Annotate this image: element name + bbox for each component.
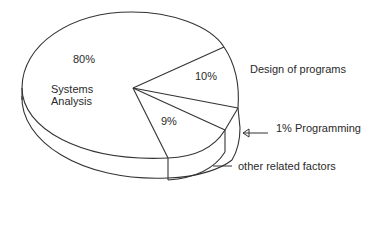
label-design-pct: 10% (195, 70, 217, 82)
label-other-name: other related factors (238, 160, 336, 172)
radial-10-1 (133, 88, 238, 108)
radial-1-9 (133, 88, 225, 130)
label-systems-line1: Systems (51, 83, 93, 95)
label-systems-line2: Analysis (51, 95, 92, 107)
label-design-name: Design of programs (250, 63, 346, 75)
label-programming: 1% Programming (276, 122, 361, 134)
label-systems-pct: 80% (73, 53, 95, 65)
label-other-pct: 9% (161, 115, 177, 127)
pie-side-right-edge (232, 128, 240, 160)
pie-side-bottom-edge (22, 96, 232, 178)
